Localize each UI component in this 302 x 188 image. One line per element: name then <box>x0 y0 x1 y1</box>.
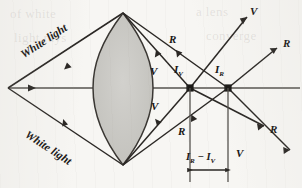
optical-axis <box>8 84 300 91</box>
ray-label-v-upper-inner: V <box>150 66 157 77</box>
Ir-to-upper-right-R <box>228 48 277 88</box>
Ir-to-lower-right-V <box>228 88 290 150</box>
ray-label-r-upper-inner: R <box>169 34 176 45</box>
optics-diagram-svg <box>0 0 302 188</box>
incident-ray-arrowheads <box>62 63 71 127</box>
ray-label-v-lower-right: V <box>236 148 243 159</box>
ray-label-v-lower-inner: V <box>151 101 158 112</box>
ray-label-v-upper-right: V <box>250 6 257 17</box>
top-ray-arrowheads <box>155 50 183 57</box>
dimension-label: IR − IV <box>186 152 215 165</box>
ray-label-r-lower-inner: R <box>178 126 185 137</box>
ray-label-r-upper-right: R <box>283 38 290 49</box>
ray-label-r-lower-right: R <box>270 124 277 135</box>
image-point-label-red: IR <box>215 64 224 78</box>
image-violet-subscript: V <box>178 70 183 78</box>
dimension-minus-sign: − <box>195 151 207 162</box>
image-point-label-violet: IV <box>174 64 183 78</box>
dimension-tail-subscript: V <box>210 157 215 165</box>
chromatic-aberration-figure: of white a lens light rays converge Whit… <box>0 0 302 188</box>
image-red-subscript: R <box>219 70 224 78</box>
axis-arrowhead <box>28 84 36 91</box>
